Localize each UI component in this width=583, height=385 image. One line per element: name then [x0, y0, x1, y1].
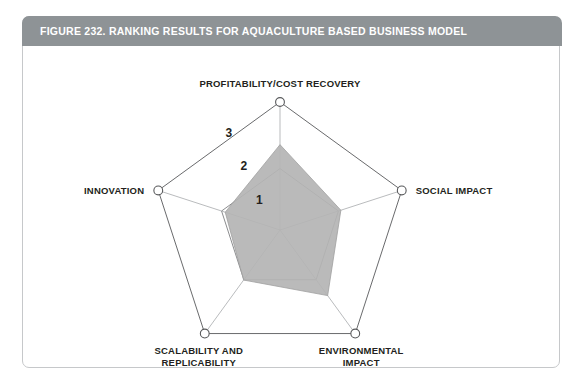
axis-label-2: SOCIAL IMPACT	[416, 185, 493, 196]
radar-chart: PROFITABILITY/COST RECOVERYSOCIAL IMPACT…	[23, 47, 559, 367]
axis-vertex-marker	[154, 186, 163, 195]
axis-vertex-marker	[397, 186, 406, 195]
axis-label-5: INNOVATION	[84, 185, 144, 196]
axis-vertex-marker	[276, 98, 285, 107]
axis-vertex-marker	[200, 329, 209, 338]
axis-label-1: PROFITABILITY/COST RECOVERY	[199, 78, 361, 89]
radial-tick-label-1: 1	[256, 193, 263, 207]
radar-chart-svg: PROFITABILITY/COST RECOVERYSOCIAL IMPACT…	[23, 47, 559, 367]
axis-label-4: SCALABILITY ANDREPLICABILITY	[155, 345, 244, 367]
axis-label-3: ENVIRONMENTALIMPACT	[319, 345, 404, 367]
radial-tick-label-2: 2	[240, 159, 247, 173]
figure-title: FIGURE 232. RANKING RESULTS FOR AQUACULT…	[40, 25, 467, 37]
figure-card: FIGURE 232. RANKING RESULTS FOR AQUACULT…	[22, 16, 560, 368]
radial-tick-label-3: 3	[226, 126, 233, 140]
axis-vertex-marker	[351, 329, 360, 338]
